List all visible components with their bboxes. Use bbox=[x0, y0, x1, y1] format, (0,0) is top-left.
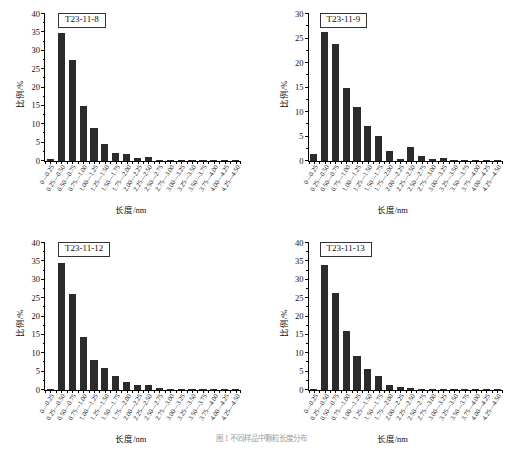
y-tick-label: 0 bbox=[299, 157, 303, 166]
bar-cell bbox=[341, 14, 352, 161]
y-tick bbox=[41, 68, 45, 69]
y-tick-label: 40 bbox=[295, 239, 304, 248]
bar-cell bbox=[187, 14, 198, 161]
y-tick bbox=[305, 111, 309, 112]
bar bbox=[123, 154, 130, 161]
x-axis-labels: 0—0.250.25—0.500.50—0.750.75—1.001.00—1.… bbox=[309, 393, 503, 435]
y-tick-minor bbox=[306, 25, 309, 26]
y-tick-minor bbox=[306, 270, 309, 271]
bar-cell bbox=[67, 243, 78, 390]
bar-cell bbox=[230, 14, 241, 161]
bar-cell bbox=[492, 243, 503, 390]
y-tick-label: 20 bbox=[32, 312, 41, 321]
bar-cell bbox=[373, 243, 384, 390]
bar-cell bbox=[459, 243, 470, 390]
chart-panel-t23-11-13: T23-11-13 比例/% 0—0.250.25—0.500.50—0.750… bbox=[262, 229, 523, 429]
bar-cell bbox=[165, 243, 176, 390]
bar-cell bbox=[99, 243, 110, 390]
y-tick bbox=[305, 260, 309, 261]
bar-cell bbox=[208, 243, 219, 390]
bar-cell bbox=[219, 243, 230, 390]
y-tick-label: 35 bbox=[32, 28, 41, 37]
y-tick-minor bbox=[43, 361, 46, 362]
bar-cell bbox=[89, 14, 100, 161]
bar-cell bbox=[341, 243, 352, 390]
bar-cell bbox=[45, 243, 56, 390]
y-tick bbox=[41, 297, 45, 298]
bar bbox=[112, 376, 119, 390]
y-tick-minor bbox=[43, 288, 46, 289]
bar-cell bbox=[165, 14, 176, 161]
y-tick bbox=[305, 136, 309, 137]
y-tick-minor bbox=[306, 251, 309, 252]
bar-cell bbox=[395, 14, 406, 161]
bar bbox=[90, 128, 97, 161]
y-tick bbox=[41, 352, 45, 353]
bar-cell bbox=[143, 243, 154, 390]
plot-area: 0—0.250.25—0.500.50—0.750.75—1.001.00—1.… bbox=[44, 243, 241, 391]
bar bbox=[386, 151, 393, 161]
y-axis-title: 比例/% bbox=[277, 310, 289, 337]
y-tick bbox=[41, 123, 45, 124]
x-axis-title: 长度/nm bbox=[0, 203, 262, 215]
y-tick-label: 5 bbox=[299, 367, 303, 376]
bar-series bbox=[45, 243, 241, 390]
y-tick bbox=[305, 316, 309, 317]
y-tick-minor bbox=[43, 132, 46, 133]
y-tick-minor bbox=[43, 41, 46, 42]
bar-cell bbox=[89, 243, 100, 390]
bar-cell bbox=[197, 243, 208, 390]
chart-panel-t23-11-9: T23-11-9 比例/% 0—0.250.25—0.500.50—0.750.… bbox=[262, 0, 523, 229]
y-tick-label: 30 bbox=[295, 276, 304, 285]
x-label-cell: 4.25—4.50 bbox=[492, 393, 503, 435]
x-axis-labels: 0—0.250.25—0.500.50—0.750.75—1.001.00—1.… bbox=[45, 393, 241, 435]
y-tick bbox=[41, 87, 45, 88]
y-tick-minor bbox=[306, 123, 309, 124]
y-tick-minor bbox=[43, 306, 46, 307]
bar bbox=[353, 107, 360, 161]
bar-cell bbox=[362, 243, 373, 390]
y-tick bbox=[41, 105, 45, 106]
y-tick bbox=[41, 389, 45, 390]
plot-area: 0—0.250.25—0.500.50—0.750.75—1.001.00—1.… bbox=[44, 14, 241, 162]
bar bbox=[80, 337, 87, 390]
bar-cell bbox=[384, 14, 395, 161]
bar-cell bbox=[154, 243, 165, 390]
bar-cell bbox=[176, 243, 187, 390]
bar-cell bbox=[427, 243, 438, 390]
y-tick-label: 5 bbox=[36, 138, 40, 147]
y-tick bbox=[41, 242, 45, 243]
x-label-cell: 4.25—4.50 bbox=[492, 164, 503, 206]
bar-cell bbox=[208, 14, 219, 161]
y-tick-minor bbox=[43, 96, 46, 97]
y-tick-minor bbox=[43, 251, 46, 252]
bar bbox=[310, 154, 317, 161]
plot-area: 0—0.250.25—0.500.50—0.750.75—1.001.00—1.… bbox=[308, 14, 503, 162]
y-tick-minor bbox=[306, 343, 309, 344]
y-tick-minor bbox=[43, 380, 46, 381]
bar bbox=[343, 88, 350, 161]
y-tick bbox=[305, 38, 309, 39]
bar-cell bbox=[197, 14, 208, 161]
bar-cell bbox=[110, 14, 121, 161]
y-tick bbox=[41, 160, 45, 161]
bar-cell bbox=[438, 14, 449, 161]
figure-caption: 图 1 不同样品中颗粒长度分布 bbox=[0, 432, 523, 443]
y-tick bbox=[305, 371, 309, 372]
y-tick-minor bbox=[306, 325, 309, 326]
bar bbox=[112, 153, 119, 161]
bar-cell bbox=[309, 14, 320, 161]
bar-cell bbox=[56, 243, 67, 390]
y-tick bbox=[305, 160, 309, 161]
bar-cell bbox=[330, 243, 341, 390]
y-tick bbox=[305, 62, 309, 63]
y-tick-label: 30 bbox=[32, 276, 41, 285]
y-tick-minor bbox=[43, 22, 46, 23]
bar bbox=[123, 382, 130, 390]
y-axis-title: 比例/% bbox=[13, 81, 25, 108]
bar-cell bbox=[481, 243, 492, 390]
bar-cell bbox=[45, 14, 56, 161]
y-tick-label: 15 bbox=[32, 102, 41, 111]
bar-cell bbox=[416, 243, 427, 390]
y-tick bbox=[305, 334, 309, 335]
